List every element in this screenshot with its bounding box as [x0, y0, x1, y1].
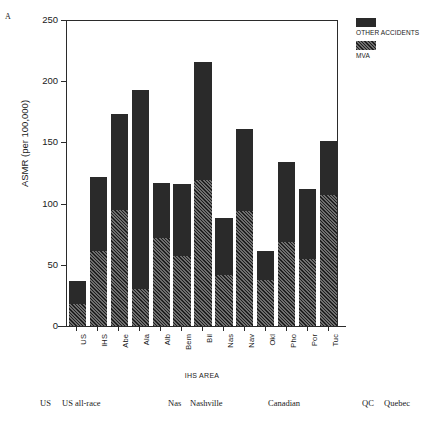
- x-axis-tick: [160, 326, 161, 331]
- bar-segment-other-accidents: [194, 62, 211, 181]
- bar-segment-mva: [320, 195, 337, 326]
- legend-label-mva: MVA: [356, 51, 438, 60]
- bar-group: [299, 20, 316, 326]
- bar-group: [69, 20, 86, 326]
- key-full: Nashville: [190, 398, 223, 408]
- bar-segment-mva: [90, 251, 107, 326]
- key-full: Quebec: [384, 398, 410, 408]
- x-axis-tick: [244, 326, 245, 331]
- bar-segment-other-accidents: [236, 129, 253, 211]
- bar-segment-other-accidents: [111, 114, 128, 209]
- bar-group: [215, 20, 232, 326]
- key-row: Canadian: [268, 398, 300, 408]
- bar-group: [132, 20, 149, 326]
- plot-area: [66, 20, 338, 326]
- legend-entry-other-accidents: OTHER ACCIDENTS: [356, 18, 438, 37]
- key-column: Canadian: [268, 398, 300, 413]
- bar-segment-mva: [111, 210, 128, 326]
- x-axis-tick-label: Nas: [226, 334, 235, 348]
- x-axis-tick-label: Alb: [163, 334, 172, 345]
- bar-group: [111, 20, 128, 326]
- x-axis-tick-label: US: [79, 334, 88, 345]
- x-axis-tick-label: IHS: [100, 334, 109, 347]
- bar-group: [194, 20, 211, 326]
- x-axis-tick: [307, 326, 308, 331]
- key-row: US US all-race: [40, 398, 100, 408]
- bar-segment-other-accidents: [278, 162, 295, 242]
- key-abbr: Nas: [168, 398, 190, 408]
- key-abbr: QC: [362, 398, 384, 408]
- x-axis-tick: [202, 326, 203, 331]
- x-axis-tick-label: Bil: [205, 334, 214, 343]
- bar-segment-mva: [153, 238, 170, 326]
- x-axis-tick: [286, 326, 287, 331]
- panel-letter: A: [5, 12, 11, 21]
- bar-segment-mva: [278, 242, 295, 326]
- x-axis-tick: [181, 326, 182, 331]
- bar-segment-mva: [236, 211, 253, 326]
- x-axis-tick: [328, 326, 329, 331]
- bar-segment-other-accidents: [153, 183, 170, 238]
- bar-group: [320, 20, 337, 326]
- x-axis-tick-label: Abe: [121, 334, 130, 348]
- bar-segment-other-accidents: [173, 184, 190, 256]
- figure-panel-a: A ASMR (per 100,000) 050100150200250 USI…: [0, 0, 438, 438]
- chart-legend: OTHER ACCIDENTS MVA: [356, 18, 438, 64]
- bar-group: [278, 20, 295, 326]
- bar-group: [173, 20, 190, 326]
- x-axis-tick: [223, 326, 224, 331]
- legend-swatch-other-accidents: [356, 18, 376, 27]
- key-row: Nas Nashville: [168, 398, 223, 408]
- bar-segment-other-accidents: [257, 251, 274, 279]
- bar-segment-mva: [69, 304, 86, 326]
- key-column: QC Quebec: [362, 398, 410, 413]
- bar-group: [257, 20, 274, 326]
- x-axis-tick-label: Tuc: [331, 334, 340, 347]
- key-row: QC Quebec: [362, 398, 410, 408]
- x-axis-tick-label: Ala: [142, 334, 151, 345]
- x-axis-tick-label: Okl: [268, 334, 277, 346]
- bar-segment-mva: [194, 180, 211, 326]
- bar-group: [153, 20, 170, 326]
- legend-swatch-mva: [356, 41, 376, 50]
- bar-segment-mva: [257, 280, 274, 327]
- x-axis-tick: [76, 326, 77, 331]
- bar-segment-mva: [299, 259, 316, 326]
- x-axis-label: IHS AREA: [66, 372, 338, 379]
- x-axis-tick-label: Nav: [247, 334, 256, 348]
- bar-group: [90, 20, 107, 326]
- bar-segment-other-accidents: [132, 90, 149, 290]
- legend-entry-mva: MVA: [356, 41, 438, 60]
- key-full: US all-race: [62, 398, 100, 408]
- x-axis-tick: [265, 326, 266, 331]
- bar-group: [236, 20, 253, 326]
- x-axis-tick: [97, 326, 98, 331]
- key-column: Nas Nashville: [168, 398, 223, 413]
- bar-segment-mva: [132, 289, 149, 326]
- bar-segment-other-accidents: [299, 189, 316, 259]
- x-axis-tick-label: Bem: [184, 334, 193, 350]
- x-axis-tick-label: Pho: [289, 334, 298, 348]
- x-axis-tick: [118, 326, 119, 331]
- bar-segment-mva: [173, 256, 190, 326]
- x-axis-tick: [139, 326, 140, 331]
- key-abbr: US: [40, 398, 62, 408]
- bar-segment-other-accidents: [215, 218, 232, 274]
- bar-segment-other-accidents: [320, 141, 337, 195]
- bar-segment-other-accidents: [69, 281, 86, 304]
- bar-segment-mva: [215, 275, 232, 326]
- x-axis-tick-label: Por: [310, 334, 319, 346]
- bar-segment-other-accidents: [90, 177, 107, 252]
- legend-label-other-accidents: OTHER ACCIDENTS: [356, 28, 438, 37]
- key-column: US US all-race: [40, 398, 100, 413]
- key-full: Canadian: [268, 398, 300, 408]
